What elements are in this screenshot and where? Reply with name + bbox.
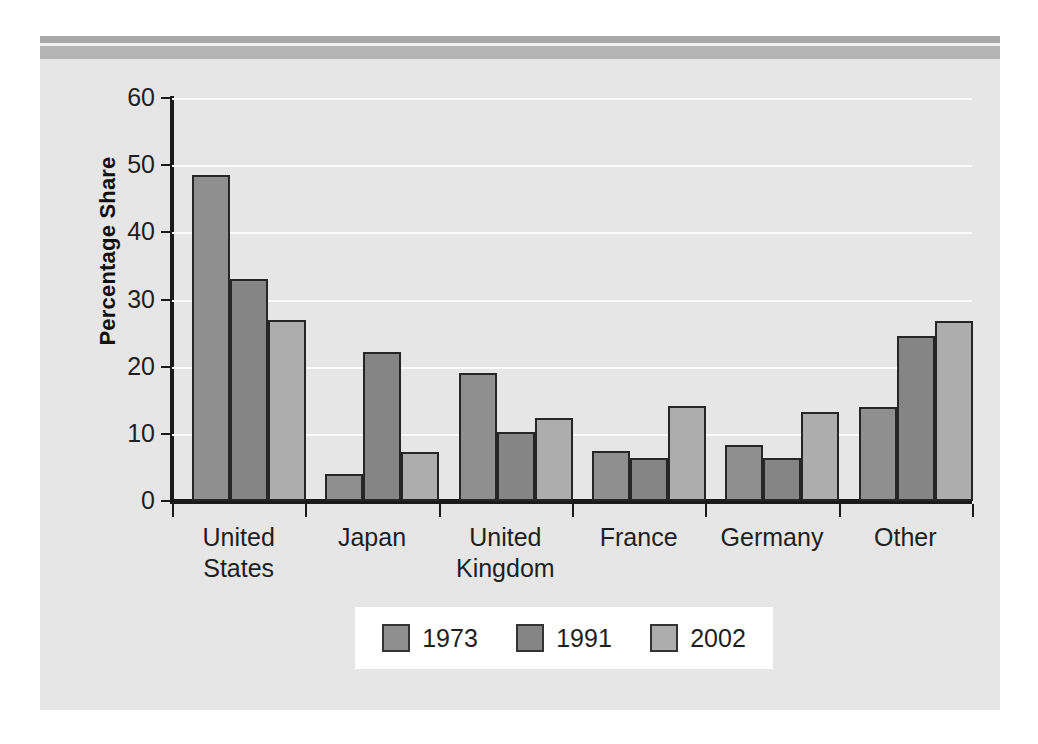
bar-1973-france [592, 451, 630, 501]
bar-1973-germany [725, 445, 763, 501]
chart-legend: 197319912002 [355, 607, 773, 669]
bar-2002-japan [401, 452, 439, 501]
y-axis-tick [161, 231, 172, 233]
x-axis-tick [172, 504, 174, 517]
bar-2002-united-states [268, 320, 306, 501]
legend-item-1991[interactable]: 1991 [516, 624, 612, 652]
y-axis-tick-label: 0 [85, 488, 155, 513]
x-axis-label-line: Other [805, 522, 1005, 553]
bar-2002-other [935, 321, 973, 501]
y-axis-tick-label: 60 [85, 85, 155, 110]
x-axis-tick [439, 504, 441, 517]
bar-1973-united-kingdom [459, 373, 497, 501]
bar-group [325, 98, 439, 501]
y-axis-tick [161, 433, 172, 435]
y-axis-tick-label: 20 [85, 354, 155, 379]
y-axis-tick [161, 500, 172, 502]
y-axis-tick [161, 366, 172, 368]
x-axis-label-line: Kingdom [405, 553, 605, 584]
bar-2002-france [668, 406, 706, 501]
bar-group [592, 98, 706, 501]
bar-1991-united-kingdom [497, 432, 535, 501]
bar-1991-united-states [230, 279, 268, 501]
bar-1991-other [897, 336, 935, 501]
bar-1991-germany [763, 458, 801, 501]
legend-item-2002[interactable]: 2002 [650, 624, 746, 652]
legend-label: 1973 [422, 626, 478, 651]
bar-group [459, 98, 573, 501]
bar-2002-united-kingdom [535, 418, 573, 501]
bar-1973-japan [325, 474, 363, 501]
legend-item-1973[interactable]: 1973 [382, 624, 478, 652]
bar-group [192, 98, 306, 501]
legend-label: 1991 [556, 626, 612, 651]
bar-2002-germany [801, 412, 839, 501]
x-axis-tick [705, 504, 707, 517]
chart-figure: Percentage Share 0102030405060 197319912… [0, 0, 1038, 744]
bar-1991-france [630, 458, 668, 501]
y-axis-tick-labels: 0102030405060 [80, 0, 155, 600]
header-rule-light [40, 46, 1000, 59]
legend-label: 2002 [690, 626, 746, 651]
x-axis-tick [839, 504, 841, 517]
y-axis-tick-label: 50 [85, 152, 155, 177]
y-axis-tick [161, 97, 172, 99]
legend-swatch-icon [650, 624, 678, 652]
y-axis-tick-label: 30 [85, 287, 155, 312]
x-axis-category-label: Other [805, 522, 1005, 553]
legend-swatch-icon [516, 624, 544, 652]
header-rule-dark [40, 36, 1000, 43]
bar-1973-united-states [192, 175, 230, 501]
y-axis-tick-label: 10 [85, 421, 155, 446]
x-axis-label-line: States [139, 553, 339, 584]
bar-1991-japan [363, 352, 401, 501]
y-axis-tick [161, 164, 172, 166]
y-axis-tick [161, 299, 172, 301]
plot-area [172, 98, 972, 501]
bar-1973-other [859, 407, 897, 501]
legend-swatch-icon [382, 624, 410, 652]
x-axis-tick [972, 504, 974, 517]
y-axis-tick-label: 40 [85, 219, 155, 244]
bar-group [859, 98, 973, 501]
x-axis-tick [572, 504, 574, 517]
bar-group [725, 98, 839, 501]
x-axis-tick [305, 504, 307, 517]
